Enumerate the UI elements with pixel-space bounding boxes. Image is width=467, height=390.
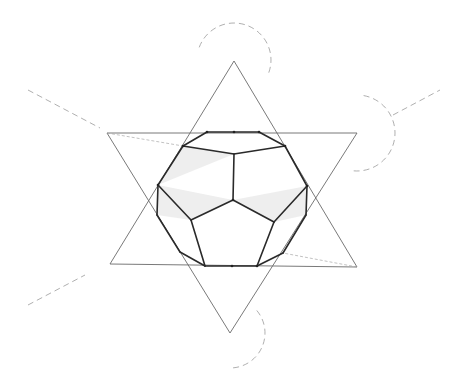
vertex-dot [206, 131, 209, 134]
dodecahedron-edge [259, 132, 285, 146]
construction-line [107, 133, 183, 146]
vertex-dot [182, 145, 185, 148]
vertex-dot [157, 184, 160, 187]
dodecahedron-edge [233, 154, 234, 200]
guide-line [393, 90, 440, 115]
construction-arc [199, 23, 271, 73]
shading [157, 185, 233, 220]
dodecahedron-edge [285, 146, 307, 186]
dodecahedron-edge [157, 185, 158, 215]
dodecahedron-edge [283, 215, 306, 253]
guide-line [28, 275, 85, 305]
sketch-canvas [0, 0, 467, 390]
dodecahedron-edge [306, 186, 307, 215]
vertex-dot [284, 145, 287, 148]
guide-line [28, 90, 100, 128]
down-triangle [107, 133, 357, 333]
vertex-dot [258, 131, 261, 134]
shading [233, 186, 307, 222]
dodecahedron-edge [157, 215, 180, 252]
vertex-dot [232, 199, 235, 202]
construction-line [283, 253, 357, 267]
vertex-dot [256, 265, 259, 268]
vertex-dot [233, 131, 236, 134]
vertex-dot [231, 265, 234, 268]
guide-lines [28, 90, 440, 305]
construction-arc [230, 311, 265, 368]
dodecahedron-edge [234, 146, 285, 154]
construction-arc [354, 96, 395, 171]
vertex-dot [306, 185, 309, 188]
dodecahedron [157, 131, 309, 268]
hexagram [107, 61, 357, 333]
